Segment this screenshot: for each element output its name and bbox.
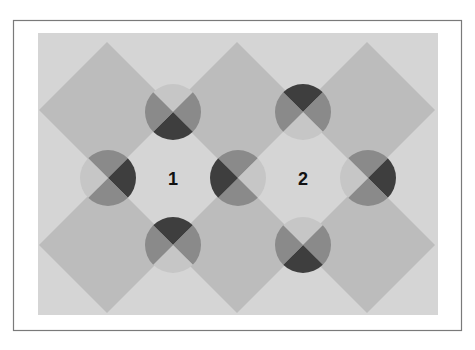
circle-top-2	[275, 84, 331, 140]
circle-bottom-1	[145, 217, 201, 273]
circle-bottom-2	[275, 217, 331, 273]
figure-canvas: 1 2	[0, 0, 475, 350]
region-label-2: 2	[298, 169, 308, 189]
circle-right	[340, 150, 396, 206]
illusion-figure: 1 2	[0, 0, 475, 350]
circle-top-1	[145, 84, 201, 140]
circle-center	[210, 150, 266, 206]
region-label-1: 1	[168, 169, 178, 189]
circle-left	[80, 150, 136, 206]
